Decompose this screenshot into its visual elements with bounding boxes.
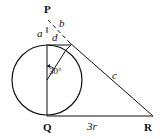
label-a: a xyxy=(37,27,43,39)
label-angle: 30° xyxy=(49,66,62,76)
geometry-diagram: P b a d 30° c Q 3r R xyxy=(0,0,163,139)
label-c: c xyxy=(112,69,117,81)
label-q: Q xyxy=(43,121,52,133)
label-b: b xyxy=(59,17,65,29)
radius-extension xyxy=(66,45,71,50)
label-p: P xyxy=(44,3,51,15)
label-3r: 3r xyxy=(86,120,98,132)
label-r: R xyxy=(144,121,153,133)
label-d: d xyxy=(52,31,58,43)
